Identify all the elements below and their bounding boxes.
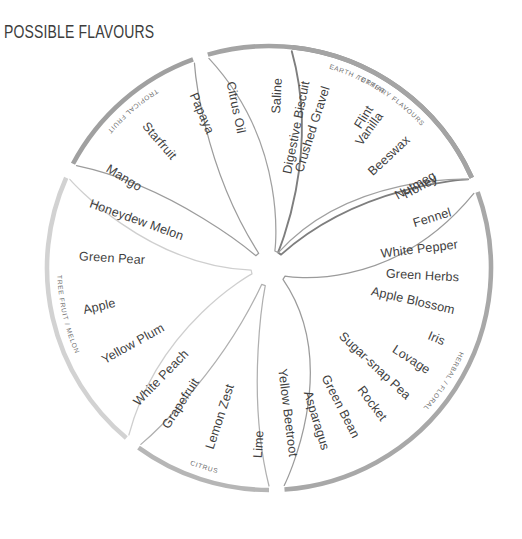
flavour-label: Apple — [82, 296, 117, 317]
flavour-label: Beeswax — [365, 133, 413, 179]
flavour-label: Sugar-snap Pea — [336, 329, 413, 402]
flavour-label: Fennel — [411, 205, 453, 230]
flavour-label: Mango — [104, 162, 145, 194]
flavour-label: Rocket — [355, 383, 390, 424]
flavour-label: Lovage — [390, 342, 433, 377]
flavour-label: White Pepper — [380, 237, 459, 260]
flavour-label: Lime — [251, 430, 267, 458]
flavour-label: Honeydew Melon — [88, 197, 186, 243]
flavour-label: Papaya — [187, 91, 217, 136]
flavour-label: Green Herbs — [386, 267, 460, 285]
flavour-label: Green Pear — [79, 249, 146, 267]
flavour-wheel-diagram: TERTIARY FLAVOURSHERBAL / FLORALCITRUSTR… — [0, 0, 522, 539]
section-label-earth-other: EARTH / OTHER — [329, 63, 387, 95]
flavour-label: Yellow Beetroot — [275, 368, 300, 458]
flavour-label: Saline — [269, 78, 285, 114]
flavour-wheel-canvas: POSSIBLE FLAVOURS TERTIARY FLAVOURSHERBA… — [0, 0, 522, 539]
flavour-label: Apple Blossom — [370, 284, 456, 317]
flavour-label: Grapefruit — [159, 375, 202, 431]
page-title: POSSIBLE FLAVOURS — [4, 22, 154, 43]
section-label-citrus: CITRUS — [189, 459, 219, 475]
flavour-label: Iris — [426, 329, 447, 349]
flavour-label: Yellow Plum — [99, 321, 166, 367]
flavour-label: Starfruit — [139, 119, 179, 162]
flavour-label: Lemon Zest — [203, 382, 237, 451]
rim-arc-layer — [47, 46, 491, 490]
flavour-label-layer: Digestive BiscuitVanillaNutmegFennelWhit… — [79, 78, 460, 459]
rim-arc-herbal-floral — [284, 192, 491, 489]
